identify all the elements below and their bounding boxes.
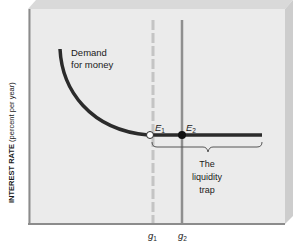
bevel-right — [285, 0, 293, 224]
g1-tick-label: g1 — [148, 230, 157, 242]
y-axis-label: INTEREST RATE (percent per year) — [7, 82, 16, 203]
trap-label-line1: The — [199, 159, 215, 169]
plot-panel — [28, 9, 285, 224]
curve-label-line2: for money — [71, 59, 113, 70]
curve-label-line1: Demand — [71, 47, 107, 58]
liquidity-trap-chart: Demand for money E1 E2 The liquidity tra… — [0, 0, 306, 247]
bevel-top — [28, 0, 293, 9]
e1-point — [147, 132, 154, 139]
trap-label-line3: trap — [199, 185, 215, 195]
e2-point — [178, 131, 186, 139]
trap-label-line2: liquidity — [192, 172, 223, 182]
g2-tick-label: g2 — [178, 230, 187, 242]
